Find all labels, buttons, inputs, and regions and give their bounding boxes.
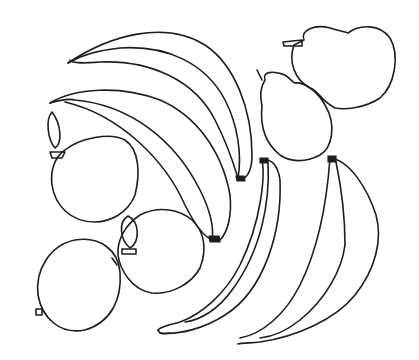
- pear-middle: [257, 70, 332, 161]
- banana-bottom-right: [238, 156, 378, 344]
- apple-upper-left: [48, 112, 138, 222]
- banana-top: [68, 32, 252, 181]
- apple-middle: [118, 210, 204, 294]
- apple-bottom-left: [36, 239, 120, 331]
- banana-bottom-left: [158, 158, 280, 334]
- fruit-drawing: Black line drawing of assorted fruit: [0, 0, 419, 360]
- pear-top-right: [283, 27, 395, 109]
- fruit-line-art: [0, 0, 419, 360]
